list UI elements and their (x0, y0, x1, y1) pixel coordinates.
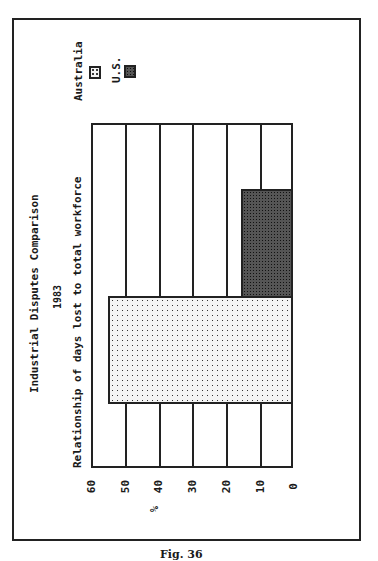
tick-50: 50 (119, 477, 132, 497)
tick-20: 20 (220, 477, 233, 497)
plot-area (91, 123, 293, 468)
bar-us (241, 189, 293, 298)
y-axis-label: % (149, 506, 160, 512)
tick-0: 0 (287, 477, 300, 497)
chart-title: Industrial Disputes Comparison (28, 194, 41, 393)
tick-40: 40 (152, 477, 165, 497)
tick-30: 30 (186, 477, 199, 497)
chart-year: 1983 (52, 285, 63, 309)
tick-10: 10 (254, 477, 267, 497)
figure-caption: Fig. 36 (160, 548, 203, 561)
legend-label-us: U.S. (110, 57, 123, 84)
tick-60: 60 (85, 477, 98, 497)
legend-swatch-australia (89, 66, 101, 79)
bar-australia (108, 296, 293, 404)
legend-label-australia: Australia (72, 41, 85, 101)
legend-swatch-us (124, 65, 136, 78)
x-axis-label: Relationship of days lost to total workf… (71, 177, 84, 468)
